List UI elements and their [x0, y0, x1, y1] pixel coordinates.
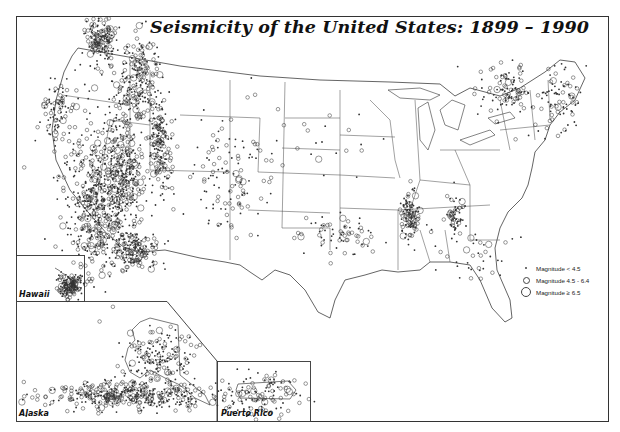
puerto-rico-label: Puerto Rico	[221, 409, 273, 418]
alaska-label: Alaska	[19, 409, 49, 418]
legend-item-small: Magnitude < 4.5	[520, 262, 589, 274]
legend-label: Magnitude < 4.5	[536, 265, 581, 272]
small-dot-icon	[520, 267, 532, 270]
map-title: Seismicity of the United States: 1899 – …	[150, 17, 480, 37]
legend-label: Magnitude ≥ 6.5	[536, 289, 580, 296]
legend-item-medium: Magnitude 4.5 - 6.4	[520, 274, 589, 286]
legend-item-large: Magnitude ≥ 6.5	[520, 286, 589, 298]
legend-label: Magnitude 4.5 - 6.4	[536, 277, 589, 284]
hawaii-label: Hawaii	[19, 290, 49, 299]
map-legend: Magnitude < 4.5 Magnitude 4.5 - 6.4 Magn…	[520, 262, 589, 298]
large-circle-icon	[520, 287, 532, 297]
seismicity-map	[0, 0, 620, 432]
medium-circle-icon	[520, 277, 532, 284]
